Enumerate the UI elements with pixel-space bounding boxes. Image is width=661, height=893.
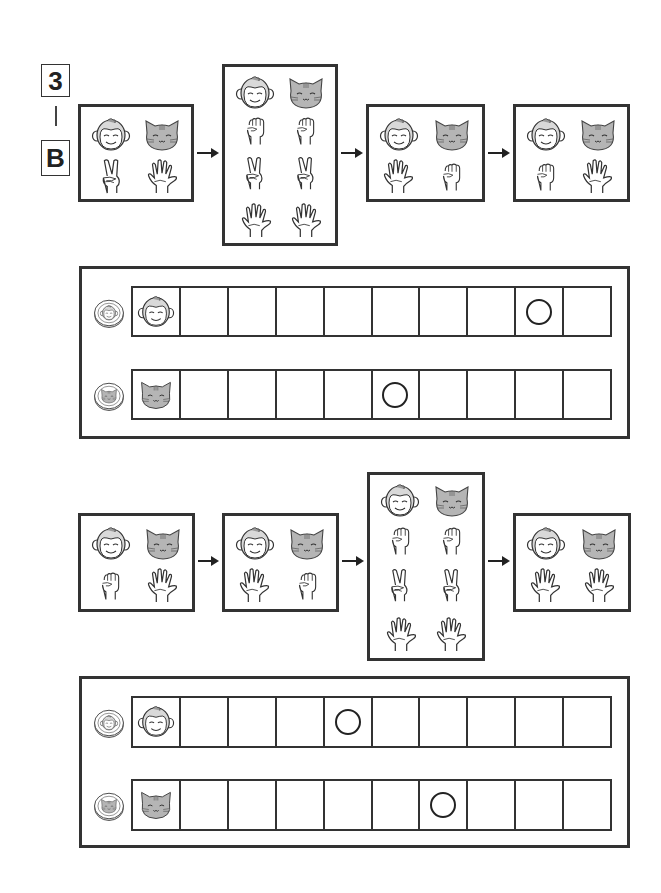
circle-marker-icon <box>382 382 408 408</box>
monkey-face-icon <box>235 73 275 113</box>
track-cell[interactable] <box>373 781 421 829</box>
track-cell[interactable] <box>181 371 229 418</box>
round-panel-2 <box>222 513 339 612</box>
track-cell[interactable] <box>564 698 612 746</box>
arrow-right-icon <box>488 152 508 154</box>
cat-face-icon <box>143 524 183 564</box>
peace-scissors-icon <box>93 157 131 195</box>
track-cell-marked[interactable] <box>373 371 421 418</box>
round-panel-1 <box>78 104 194 202</box>
cat-coin-icon <box>92 789 126 823</box>
open-hand-paper-icon <box>432 615 470 653</box>
score-board-bottom <box>79 676 630 848</box>
monkey-track <box>131 286 612 337</box>
cat-face-icon <box>142 115 182 155</box>
track-cell[interactable] <box>468 371 516 418</box>
monkey-face-icon <box>137 293 175 331</box>
cat-track <box>131 369 612 420</box>
open-hand-paper-icon <box>580 566 618 604</box>
round-panel-3 <box>366 104 485 202</box>
monkey-face-icon <box>526 524 566 564</box>
monkey-face-icon <box>91 524 131 564</box>
track-cell[interactable] <box>516 698 564 746</box>
track-cell[interactable] <box>277 288 325 335</box>
cat-face-icon <box>432 481 472 521</box>
track-cell-marked[interactable] <box>420 781 468 829</box>
track-cell[interactable] <box>181 288 229 335</box>
fist-rock-icon <box>291 568 325 602</box>
track-cell[interactable] <box>420 371 468 418</box>
track-cell[interactable] <box>468 288 516 335</box>
cat-face-icon <box>138 787 174 823</box>
track-cell[interactable] <box>564 371 612 418</box>
track-cell[interactable] <box>468 781 516 829</box>
open-hand-paper-icon <box>379 157 417 195</box>
track-cell[interactable] <box>516 371 564 418</box>
round-panel-3-tie <box>367 472 485 661</box>
track-cell-start <box>133 288 181 335</box>
track-cell[interactable] <box>277 698 325 746</box>
track-cell[interactable] <box>564 781 612 829</box>
open-hand-paper-icon <box>382 615 420 653</box>
track-cell[interactable] <box>181 698 229 746</box>
track-cell-start <box>133 781 181 829</box>
track-cell[interactable] <box>325 371 373 418</box>
worksheet-number-label: 3 <box>41 64 70 97</box>
track-cell[interactable] <box>516 781 564 829</box>
round-panel-2-tie <box>222 64 338 246</box>
cat-face-icon <box>579 524 619 564</box>
open-hand-paper-icon <box>526 566 564 604</box>
track-cell[interactable] <box>229 781 277 829</box>
open-hand-paper-icon <box>287 201 325 239</box>
fist-rock-icon <box>239 113 273 147</box>
track-cell[interactable] <box>564 288 612 335</box>
monkey-face-icon <box>137 703 175 741</box>
monkey-face-icon <box>379 115 419 155</box>
peace-scissors-icon <box>288 155 324 191</box>
track-cell[interactable] <box>277 781 325 829</box>
score-board-top <box>79 266 630 439</box>
open-hand-paper-icon <box>235 566 273 604</box>
open-hand-paper-icon <box>237 201 275 239</box>
arrow-right-icon <box>198 560 217 562</box>
track-cell[interactable] <box>229 698 277 746</box>
cat-face-icon <box>138 377 174 413</box>
fist-rock-icon <box>435 159 469 193</box>
round-panel-1 <box>78 513 195 612</box>
track-cell-start <box>133 698 181 746</box>
track-cell[interactable] <box>325 781 373 829</box>
monkey-face-icon <box>526 115 566 155</box>
cat-face-icon <box>432 115 472 155</box>
circle-marker-icon <box>430 792 456 818</box>
cat-coin-icon <box>92 379 126 413</box>
open-hand-paper-icon <box>143 566 181 604</box>
track-cell-start <box>133 371 181 418</box>
track-cell[interactable] <box>420 698 468 746</box>
fist-rock-icon <box>529 159 563 193</box>
fist-rock-icon <box>384 523 418 557</box>
track-cell[interactable] <box>325 288 373 335</box>
monkey-coin-icon <box>92 706 126 740</box>
monkey-coin-icon <box>92 296 126 330</box>
track-cell[interactable] <box>181 781 229 829</box>
track-cell-marked[interactable] <box>325 698 373 746</box>
circle-marker-icon <box>526 299 552 325</box>
track-cell[interactable] <box>229 288 277 335</box>
cat-face-icon <box>578 115 618 155</box>
track-cell[interactable] <box>420 288 468 335</box>
track-cell[interactable] <box>373 698 421 746</box>
track-cell[interactable] <box>373 288 421 335</box>
track-cell[interactable] <box>468 698 516 746</box>
arrow-right-icon <box>342 560 362 562</box>
fist-rock-icon <box>94 568 128 602</box>
round-panel-4 <box>513 104 630 202</box>
track-cell[interactable] <box>277 371 325 418</box>
round-panel-4 <box>513 513 631 612</box>
track-cell-marked[interactable] <box>516 288 564 335</box>
monkey-face-icon <box>91 115 131 155</box>
open-hand-paper-icon <box>143 157 181 195</box>
arrow-right-icon <box>488 560 508 562</box>
worksheet-letter-label: B <box>41 140 70 176</box>
arrow-right-icon <box>341 152 361 154</box>
track-cell[interactable] <box>229 371 277 418</box>
